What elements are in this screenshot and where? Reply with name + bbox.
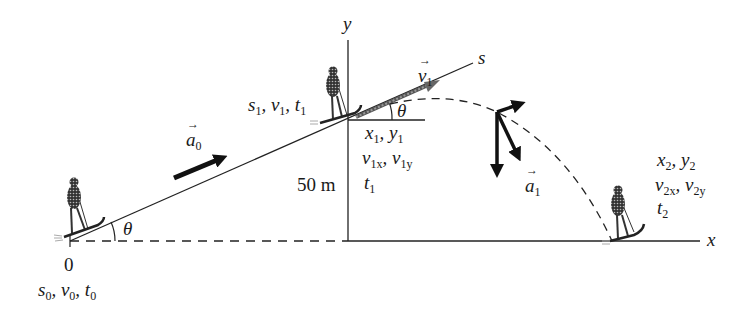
height-label: 50 m	[297, 175, 336, 194]
y-axis-label: y	[343, 14, 351, 33]
launch-velocity-label: v1x, v1y	[362, 148, 412, 170]
vector-a1-label: a1	[525, 176, 541, 198]
landing-time-label: t2	[657, 198, 668, 220]
skier-start	[54, 178, 104, 242]
landing-velocity-label: v2x, v2y	[655, 175, 705, 197]
ramp-slope	[70, 63, 473, 241]
origin-label: 0	[64, 255, 74, 274]
launch-position-label: x1, y1	[365, 123, 403, 145]
angle-theta-base: θ	[123, 219, 132, 238]
acceleration-vector-a0	[174, 158, 222, 178]
start-state-label: s0, v0, t0	[38, 280, 96, 302]
angle-theta-launch: θ	[397, 101, 406, 120]
vector-v1-label: v1	[418, 66, 432, 88]
landing-position-label: x2, y2	[657, 150, 695, 172]
angle-arc-launch	[389, 102, 392, 120]
s-axis-label: s	[478, 48, 485, 67]
x-axis-label: x	[707, 230, 715, 249]
skier-landing	[602, 186, 644, 245]
launch-time-label: t1	[364, 173, 375, 195]
vector-a0-label: a0	[186, 130, 202, 152]
top-slope-state-label: s1, v1, t1	[248, 95, 306, 117]
angle-arc-base	[111, 222, 115, 241]
